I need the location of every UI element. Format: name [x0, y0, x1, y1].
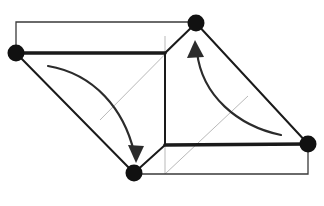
vertex-dot-bottom: [126, 165, 143, 182]
edge-center-bottom-to-right-line: [165, 144, 308, 145]
vertex-dot-top: [188, 15, 205, 32]
vertex-dot-right: [300, 136, 317, 153]
geometric-figure-container: [0, 0, 324, 206]
figure-background: [0, 0, 324, 206]
geometric-figure-svg: [0, 0, 324, 206]
vertex-dot-left: [8, 45, 25, 62]
